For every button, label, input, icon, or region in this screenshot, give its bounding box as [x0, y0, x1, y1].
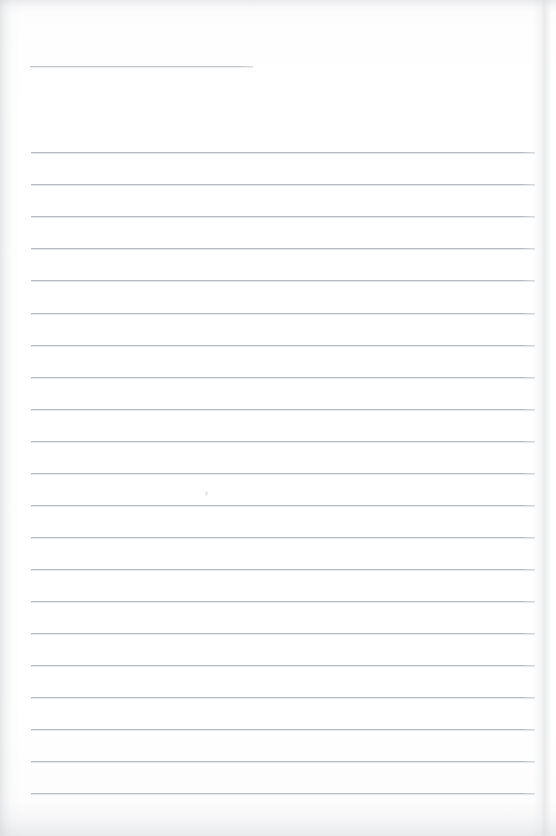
ruled-line [31, 537, 535, 538]
ruled-lines-layer [0, 0, 556, 836]
ruled-line [31, 569, 535, 570]
scanned-page-canvas [0, 0, 556, 836]
ruled-line [31, 601, 535, 602]
ruled-line [31, 409, 535, 410]
page-bottom-edge-shadow [0, 800, 556, 836]
ruled-line [31, 248, 535, 249]
ruled-line [31, 473, 535, 474]
ruled-line [31, 761, 535, 762]
faint-scan-speck [205, 491, 208, 496]
ruled-line [31, 697, 535, 698]
ruled-line [31, 216, 535, 217]
ruled-line [31, 729, 535, 730]
ruled-line [31, 152, 535, 153]
ruled-line [31, 184, 535, 185]
ruled-line [31, 345, 535, 346]
ruled-line [31, 313, 535, 314]
ruled-line [31, 441, 535, 442]
ruled-line [31, 665, 535, 666]
page-left-edge-shadow [0, 0, 20, 836]
ruled-line [31, 280, 535, 281]
page-top-edge-shadow [0, 0, 556, 14]
ruled-line [31, 377, 535, 378]
ruled-line [31, 505, 535, 506]
page-right-edge [533, 0, 551, 836]
date-or-title-rule [30, 66, 253, 67]
ruled-line [31, 633, 535, 634]
ruled-line [31, 793, 535, 794]
